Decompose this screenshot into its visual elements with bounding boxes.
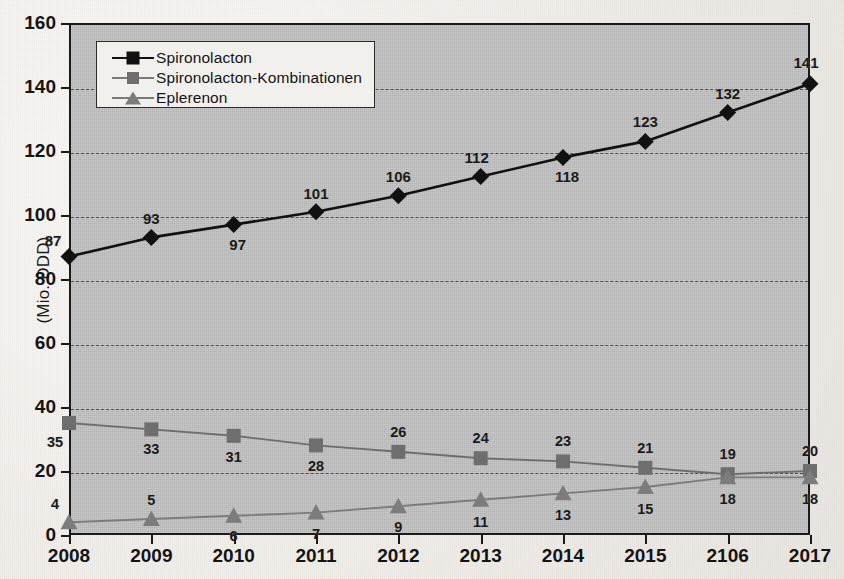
legend-label: Eplerenon [156,89,228,107]
x-axis-tick-label: 2008 [48,545,90,567]
gridline [71,345,808,346]
point-value-label: 132 [715,84,740,101]
point-value-label: 11 [473,514,488,530]
x-axis-tick [810,535,812,544]
x-axis-tick-label: 2009 [130,545,172,567]
gridline [71,409,808,410]
gridline [71,281,808,282]
x-axis-tick-label: 2017 [789,545,831,567]
point-value-label: 18 [720,491,736,507]
point-value-label: 112 [465,148,489,165]
y-axis-tick-label: 60 [0,332,56,354]
legend-label: Spironolacton-Kombinationen [156,69,362,87]
point-value-label: 93 [143,210,160,227]
point-value-label: 35 [47,434,63,450]
x-axis-tick-label: 2013 [460,545,502,567]
point-value-label: 87 [45,231,62,248]
point-value-label: 23 [555,433,571,449]
x-axis-tick-label: 2014 [542,545,584,567]
point-value-label: 31 [226,449,242,465]
line-chart: (Mio. DDD) 020406080100120140160 8793971… [0,0,844,579]
gridline [71,153,808,154]
x-axis-tick-label: 2012 [377,545,419,567]
y-axis-tick-label: 0 [0,524,56,546]
point-value-label: 15 [637,501,653,517]
gridline [71,473,808,474]
gridline [71,217,808,218]
point-value-label: 28 [308,458,324,474]
triangle-icon [110,89,156,107]
point-value-label: 13 [555,507,571,523]
point-value-label: 26 [390,424,406,440]
y-axis-tick-label: 80 [0,268,56,290]
point-value-label: 118 [555,168,579,185]
point-value-label: 97 [229,235,246,252]
point-value-label: 5 [147,492,155,508]
x-axis-tick-label: 2010 [213,545,255,567]
x-axis-tick [481,535,483,544]
x-axis-tick [234,535,236,544]
point-value-label: 101 [303,184,328,201]
y-axis-tick-label: 120 [0,140,56,162]
point-value-label: 9 [394,519,402,535]
x-axis-tick [728,535,730,544]
point-value-label: 18 [802,491,818,507]
legend: Spironolacton Spironolacton-Kombinatione… [96,41,375,108]
square-icon [110,69,156,87]
y-axis-tick-label: 40 [0,396,56,418]
legend-item-spironolacton: Spironolacton [97,48,374,68]
point-value-label: 20 [802,443,818,459]
legend-item-spironolacton-kombinationen: Spironolacton-Kombinationen [97,68,374,88]
point-value-label: 106 [386,167,411,184]
diamond-icon [110,49,156,67]
legend-label: Spironolacton [156,49,252,67]
x-axis-tick [563,535,565,544]
x-axis-tick-label: 2106 [707,545,749,567]
legend-item-eplerenon: Eplerenon [97,88,374,108]
y-axis-tick-label: 100 [0,204,56,226]
x-axis-tick [398,535,400,544]
x-axis-tick-label: 2015 [624,545,666,567]
y-axis-tick-label: 160 [0,12,56,34]
point-value-label: 19 [720,446,736,462]
point-value-label: 21 [637,440,653,456]
x-axis-tick [316,535,318,544]
point-value-label: 4 [51,496,59,512]
point-value-label: 141 [793,53,818,70]
x-axis-tick [151,535,153,544]
x-axis-tick-label: 2011 [295,545,336,567]
y-axis-tick-label: 140 [0,76,56,98]
point-value-label: 24 [473,430,489,446]
y-axis-tick-label: 20 [0,460,56,482]
x-axis-tick [645,535,647,544]
x-axis-tick [69,535,71,544]
point-value-label: 33 [143,441,159,457]
point-value-label: 123 [633,113,658,130]
